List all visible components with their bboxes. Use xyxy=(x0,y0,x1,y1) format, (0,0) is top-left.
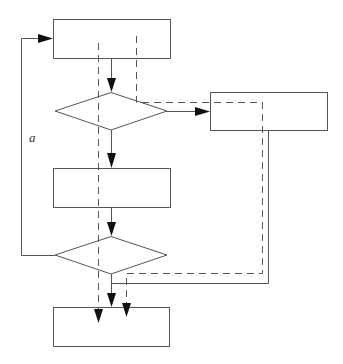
arrowhead-icon xyxy=(107,78,116,92)
process-box-2 xyxy=(54,169,171,208)
process-box-side xyxy=(211,93,328,131)
edge-decision2-loop-to-process1 xyxy=(22,34,56,256)
arrowhead-icon xyxy=(107,222,116,236)
arrowhead-icon xyxy=(107,153,116,168)
edge-decision2-to-process3 xyxy=(107,274,116,307)
arrowhead-icon xyxy=(38,34,53,43)
process-box-1 xyxy=(54,20,171,59)
flowchart-diagram: a xyxy=(0,0,343,364)
loop-label-a: a xyxy=(29,130,36,145)
edge-process2-to-decision2 xyxy=(107,208,116,237)
edge-decision1-to-side xyxy=(167,107,210,116)
arrowhead-icon xyxy=(195,107,210,116)
arrowhead-icon xyxy=(107,293,116,307)
edge-process1-to-decision1 xyxy=(107,59,116,93)
decision-diamond-2 xyxy=(55,237,167,275)
decision-diamond-1 xyxy=(55,93,167,131)
edge-decision1-to-process2 xyxy=(107,130,116,168)
process-box-3 xyxy=(54,308,170,347)
